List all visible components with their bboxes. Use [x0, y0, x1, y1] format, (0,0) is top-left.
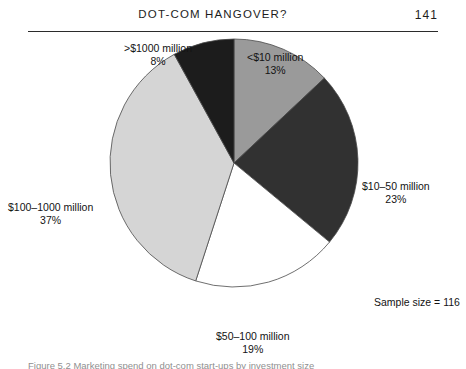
pie-label-gt-1000-million: >$1000 million 8% — [124, 42, 192, 68]
pie-label-100-1000-million: $100–1000 million 37% — [8, 201, 93, 227]
figure-caption: Figure 5.2 Marketing spend on dot-com st… — [28, 360, 440, 369]
pie-label-category: <$10 million — [247, 51, 303, 64]
pie-label-50-100-million: $50–100 million 19% — [216, 330, 290, 356]
pie-chart-figure: >$1000 million 8% <$10 million 13% $10–5… — [0, 34, 466, 354]
pie-label-percent: 13% — [247, 64, 303, 77]
pie-label-category: $10–50 million — [362, 180, 430, 193]
pie-slice-group — [110, 39, 358, 287]
pie-label-10-50-million: $10–50 million 23% — [362, 180, 430, 206]
pie-chart — [109, 38, 359, 288]
pie-label-lt-10-million: <$10 million 13% — [247, 51, 303, 77]
pie-label-percent: 23% — [362, 193, 430, 206]
pie-label-category: $50–100 million — [216, 330, 290, 343]
pie-label-percent: 19% — [216, 343, 290, 356]
page-header: DOT-COM HANGOVER? 141 — [28, 8, 438, 30]
header-rule — [28, 31, 438, 32]
pie-label-category: $100–1000 million — [8, 201, 93, 214]
sample-size-note: Sample size = 116 — [374, 296, 460, 308]
pie-label-percent: 8% — [124, 55, 192, 68]
pie-label-percent: 37% — [8, 214, 93, 227]
page-number: 141 — [415, 8, 438, 22]
pie-label-category: >$1000 million — [124, 42, 192, 55]
running-head-title: DOT-COM HANGOVER? — [28, 8, 398, 20]
